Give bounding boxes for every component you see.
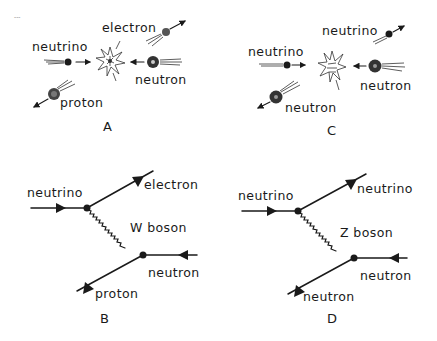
label-electron: electron (144, 177, 198, 192)
vertex-dot (84, 205, 91, 212)
w-boson-line (88, 210, 125, 248)
label-w-boson: W boson (130, 220, 187, 235)
panel-b: neutrino electron W boson neutron proton… (27, 171, 200, 326)
neutron-particle-icon (131, 56, 182, 68)
label-neutrino-out: neutrino (322, 23, 378, 38)
panel-label-d: D (327, 311, 337, 326)
label-neutron-out: neutron (303, 289, 355, 304)
arrow-icon (83, 282, 94, 294)
panel-label-c: C (327, 123, 336, 138)
collision-burst-icon (96, 41, 125, 81)
neutrino-particle-icon (44, 59, 90, 66)
label-neutrino: neutrino (32, 39, 88, 54)
neutron-in-particle-icon (354, 60, 405, 73)
label-neutrino-out: neutrino (357, 181, 413, 196)
stray-mark: --- (14, 13, 21, 20)
label-neutron-out: neutron (285, 100, 337, 115)
label-neutrino-in: neutrino (248, 44, 304, 59)
label-neutrino: neutrino (27, 185, 83, 200)
vertex-dot (140, 252, 147, 259)
vertex-dot (295, 208, 302, 215)
arrow-right-icon (267, 206, 277, 216)
label-neutron: neutron (148, 265, 200, 280)
panel-a: electron neutrino neutron (32, 20, 187, 134)
vertex-dot (351, 255, 358, 262)
panel-label-b: B (100, 311, 109, 326)
label-proton: proton (60, 95, 103, 110)
label-neutron-in: neutron (360, 268, 412, 283)
label-neutron-in: neutron (360, 78, 412, 93)
arrow-right-icon (56, 203, 66, 213)
arrow-left-icon (389, 253, 399, 263)
z-boson-line (299, 213, 336, 251)
panel-d: neutrino neutrino Z boson neutron neutro… (238, 174, 413, 326)
neutrino-in-particle-icon (259, 62, 305, 69)
label-neutrino-in: neutrino (238, 188, 294, 203)
panel-c: neutrino neutrino neutron (248, 23, 412, 138)
label-neutron: neutron (135, 72, 187, 87)
figure-canvas: --- electron neutrino (0, 0, 437, 341)
arrow-left-icon (178, 250, 188, 260)
label-z-boson: Z boson (340, 225, 393, 240)
collision-burst-icon (318, 51, 346, 90)
panel-label-a: A (103, 119, 112, 134)
label-proton: proton (95, 286, 138, 301)
label-electron: electron (102, 20, 156, 35)
